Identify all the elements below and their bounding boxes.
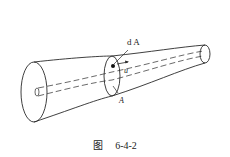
- area-element-dot: [111, 64, 115, 68]
- tube-top-outline: [34, 45, 205, 62]
- inner-streamline-upper: [38, 51, 203, 88]
- caption-number: 6-4-2: [115, 140, 137, 151]
- middle-cross-section: [104, 56, 120, 96]
- label-A: A: [118, 96, 124, 105]
- velocity-arrow-head: [125, 61, 129, 64]
- stream-tube-diagram: d A u A: [0, 0, 230, 157]
- inlet-cross-section: [21, 62, 47, 122]
- outlet-cross-section: [200, 45, 210, 63]
- inlet-streamline-core: [35, 88, 39, 96]
- inner-streamline-lower: [38, 56, 203, 96]
- figure-caption: 图6-4-2: [0, 137, 230, 152]
- label-dA: d A: [127, 37, 140, 47]
- caption-prefix: 图: [93, 140, 103, 151]
- cross-section-leader: [113, 86, 118, 93]
- label-u: u: [124, 66, 128, 75]
